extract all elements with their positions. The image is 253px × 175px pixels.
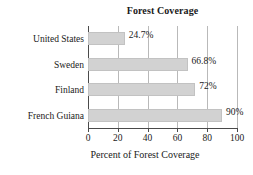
x-axis-tick — [237, 128, 238, 132]
x-axis-tick — [118, 128, 119, 132]
x-axis-tick — [177, 128, 178, 132]
x-axis-tick-label: 100 — [230, 133, 244, 143]
forest-coverage-chart: Forest Coverage United StatesSwedenFinla… — [0, 0, 253, 175]
bar-row: 24.7% — [88, 26, 237, 52]
chart-title: Forest Coverage — [88, 5, 237, 16]
x-axis-tick — [88, 128, 89, 132]
bar[interactable] — [88, 83, 195, 96]
category-label: Finland — [0, 85, 84, 95]
x-axis-title: Percent of Forest Coverage — [50, 149, 240, 160]
category-axis-labels: United StatesSwedenFinlandFrench Guiana — [0, 26, 84, 128]
x-axis-tick-label: 0 — [86, 133, 91, 143]
x-axis-tick-label: 60 — [173, 133, 183, 143]
bar[interactable] — [88, 32, 125, 45]
x-axis-tick — [207, 128, 208, 132]
x-axis-tick-label: 80 — [202, 133, 212, 143]
bar-row: 66.8% — [88, 52, 237, 78]
bar[interactable] — [88, 58, 188, 71]
bar-row: 72% — [88, 77, 237, 103]
bar-value-label: 90% — [226, 107, 243, 117]
bar-value-label: 72% — [199, 81, 216, 91]
category-label: Sweden — [0, 60, 84, 70]
x-axis-tick-label: 20 — [113, 133, 123, 143]
x-axis-tick-label: 40 — [143, 133, 153, 143]
bar-value-label: 24.7% — [129, 30, 154, 40]
x-axis-line — [88, 128, 238, 129]
category-label: United States — [0, 34, 84, 44]
bars: 24.7%66.8%72%90% — [88, 26, 237, 128]
plot-area: 24.7%66.8%72%90% — [88, 26, 237, 128]
x-axis-tick — [148, 128, 149, 132]
bar[interactable] — [88, 109, 222, 122]
category-label: French Guiana — [0, 111, 84, 121]
bar-row: 90% — [88, 103, 237, 129]
bar-value-label: 66.8% — [192, 56, 217, 66]
